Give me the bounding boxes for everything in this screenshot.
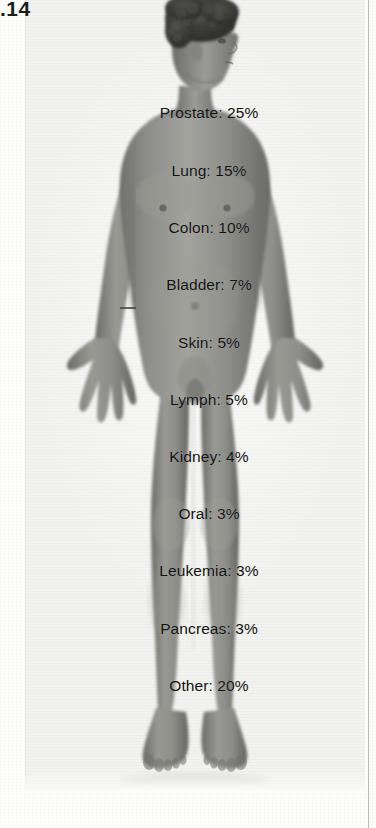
- cancer-site-label-bladder: Bladder: 7%: [166, 276, 252, 294]
- cancer-site-label-other: Other: 20%: [169, 677, 248, 695]
- cancer-site-label-prostate: Prostate: 25%: [160, 104, 259, 122]
- cancer-site-label-colon: Colon: 10%: [168, 219, 249, 237]
- cancer-site-label-leukemia: Leukemia: 3%: [159, 562, 258, 580]
- page-number: .14: [0, 0, 31, 21]
- cancer-site-label-lymph: Lymph: 5%: [170, 391, 248, 409]
- cancer-site-label-pancreas: Pancreas: 3%: [160, 620, 258, 638]
- cancer-site-label-overlay: Prostate: 25%Lung: 15%Colon: 10%Bladder:…: [0, 0, 376, 828]
- page-right-rule: [368, 0, 369, 828]
- cancer-site-label-lung: Lung: 15%: [171, 162, 246, 180]
- cancer-site-label-oral: Oral: 3%: [178, 505, 239, 523]
- cancer-site-label-skin: Skin: 5%: [178, 334, 240, 352]
- scanned-figure-page: Prostate: 25%Lung: 15%Colon: 10%Bladder:…: [0, 0, 376, 828]
- cancer-site-label-kidney: Kidney: 4%: [169, 448, 248, 466]
